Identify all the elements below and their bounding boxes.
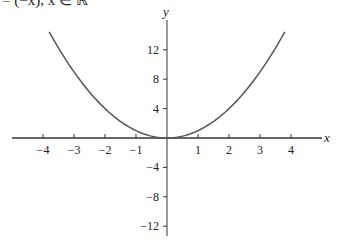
- y-tick-label: −12: [140, 219, 159, 233]
- x-tick-label: 4: [288, 143, 294, 157]
- axes: [12, 20, 322, 236]
- x-tick-label: −3: [68, 143, 81, 157]
- x-tick-label: 1: [195, 143, 201, 157]
- x-tick-label: 3: [257, 143, 263, 157]
- parabola-chart: −4−3−2−11234 1284−4−8−12 x y: [0, 0, 339, 246]
- x-axis-label: x: [323, 130, 330, 145]
- y-tick-label: −4: [146, 160, 159, 174]
- y-axis-label: y: [161, 4, 169, 19]
- y-tick-label: 12: [147, 43, 159, 57]
- y-tick-label: 8: [153, 72, 159, 86]
- x-tick-label: 2: [226, 143, 232, 157]
- x-tick-label: −1: [130, 143, 143, 157]
- y-tick-label: 4: [153, 102, 159, 116]
- x-tick-label: −2: [99, 143, 112, 157]
- y-tick-label: −8: [146, 190, 159, 204]
- x-tick-label: −4: [37, 143, 50, 157]
